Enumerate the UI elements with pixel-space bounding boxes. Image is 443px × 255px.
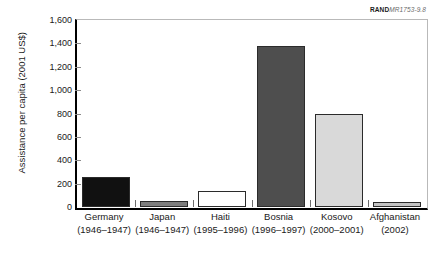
category-separator-tick [193, 200, 194, 207]
y-axis-tick-label: 1,400 [49, 39, 72, 48]
bar-japan [140, 201, 188, 207]
bar-kosovo [315, 114, 363, 208]
y-axis-tick-label: 800 [57, 109, 72, 118]
category-separator-tick [368, 200, 369, 207]
y-axis-tick-label: 1,200 [49, 62, 72, 71]
rand-credit-label: RANDMR1753-9.8 [370, 7, 426, 14]
y-axis-title: Assistance per capita (2001 US$) [17, 3, 27, 203]
category-separator-tick [135, 200, 136, 207]
y-axis-tick-label: 600 [57, 132, 72, 141]
y-axis-tick-label: 200 [57, 179, 72, 188]
x-axis-category-period: (2002) [358, 224, 432, 237]
bar-germany [82, 177, 130, 207]
category-separator-tick [310, 200, 311, 207]
y-axis-tick-label: 400 [57, 156, 72, 165]
x-axis-category-name: Afghanistan [358, 211, 432, 224]
x-axis-group-afghanistan: Afghanistan(2002) [358, 211, 432, 236]
category-separator-tick [252, 200, 253, 207]
bars-container [77, 20, 426, 207]
rand-code-text: MR1753-9.8 [389, 6, 426, 13]
y-axis-tick-label: 1,000 [49, 86, 72, 95]
x-axis-labels: Germany(1946–1947)Japan(1946–1947)Haiti(… [75, 211, 426, 253]
bar-afghanistan [373, 202, 421, 207]
chart-figure: RANDMR1753-9.8 Assistance per capita (20… [0, 0, 443, 255]
bar-haiti [198, 191, 246, 207]
rand-brand-text: RAND [370, 6, 389, 13]
bar-bosnia [257, 46, 305, 207]
y-axis-tick-label: 1,600 [49, 16, 72, 25]
